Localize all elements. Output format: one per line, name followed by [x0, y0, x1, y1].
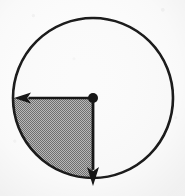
geometry-figure: [0, 0, 185, 196]
scan-shading-overlay: [0, 0, 185, 196]
circle-quadrant-diagram: [0, 0, 185, 196]
